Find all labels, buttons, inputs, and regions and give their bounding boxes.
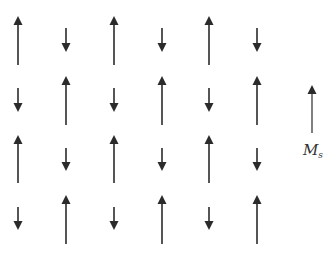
net-magnetization-arrow-icon: [308, 85, 317, 133]
spin-down-arrow-icon: [253, 148, 262, 171]
magnetization-arrow-icon: [308, 85, 317, 133]
net-magnetization-label: Ms: [303, 143, 323, 160]
spin-up-arrow-icon: [205, 135, 214, 183]
spin-up-arrow-icon: [205, 16, 214, 65]
spin-up-arrow-icon: [253, 76, 262, 125]
spin-up-arrow-icon: [253, 195, 262, 244]
spin-up-arrow-icon: [158, 195, 167, 244]
spin-down-arrow-icon: [253, 28, 262, 52]
spin-down-arrow-icon: [62, 28, 71, 52]
spin-down-arrow-icon: [62, 148, 71, 171]
spin-up-arrow-icon: [62, 195, 71, 244]
spin-up-arrow-icon: [110, 135, 119, 183]
spin-down-arrow-icon: [205, 207, 214, 230]
spin-down-arrow-icon: [110, 207, 119, 230]
spin-down-arrow-icon: [158, 28, 167, 52]
spin-up-arrow-icon: [14, 135, 23, 183]
spin-down-arrow-icon: [14, 207, 23, 230]
spin-up-arrow-icon: [14, 16, 23, 65]
spin-up-arrow-icon: [62, 76, 71, 125]
spin-up-arrow-icon: [110, 16, 119, 65]
spin-down-arrow-icon: [158, 148, 167, 171]
spin-lattice-diagram: [0, 0, 333, 279]
spin-down-arrow-icon: [205, 88, 214, 112]
spin-up-arrow-icon: [158, 76, 167, 125]
spin-down-arrow-icon: [14, 88, 23, 112]
spin-down-arrow-icon: [110, 88, 119, 112]
spin-arrows-group: [14, 16, 262, 244]
